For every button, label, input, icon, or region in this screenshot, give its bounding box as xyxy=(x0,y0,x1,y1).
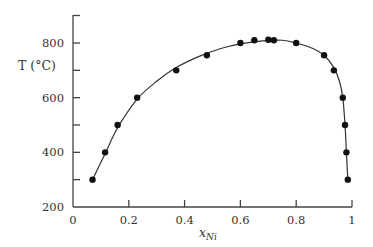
data-point xyxy=(237,40,243,46)
x-tick-label: 0.4 xyxy=(175,213,193,227)
x-axis-label: xNi xyxy=(199,225,217,242)
x-tick-label: 0.8 xyxy=(287,213,305,227)
x-tick-label: 0.6 xyxy=(231,213,249,227)
y-axis-label: T (°C) xyxy=(18,58,56,73)
data-point xyxy=(102,149,108,155)
y-tick-label: 600 xyxy=(42,91,64,105)
y-tick-label: 200 xyxy=(42,200,64,214)
data-point xyxy=(265,37,271,43)
data-point xyxy=(134,94,140,100)
x-tick-label: 0.2 xyxy=(120,213,138,227)
x-tick-label: 0 xyxy=(69,213,76,227)
data-point xyxy=(343,149,349,155)
data-point xyxy=(342,122,348,128)
fitted-curve xyxy=(93,40,348,180)
phase-diagram-chart: 200400600800 00.20.40.60.81 T (°C) xNi xyxy=(0,0,373,247)
y-tick-label: 400 xyxy=(42,145,64,159)
data-point xyxy=(204,52,210,58)
x-ticks: 00.20.40.60.81 xyxy=(69,200,355,227)
data-point xyxy=(345,176,351,182)
data-point xyxy=(114,122,120,128)
data-point xyxy=(340,94,346,100)
data-point xyxy=(251,37,257,43)
data-point xyxy=(271,37,277,43)
data-point xyxy=(173,67,179,73)
x-tick-label: 1 xyxy=(348,213,355,227)
x-axis-label-main: x xyxy=(199,225,206,240)
x-axis-label-subscript: Ni xyxy=(205,232,217,242)
axes xyxy=(73,15,352,207)
data-point xyxy=(293,40,299,46)
data-point xyxy=(321,52,327,58)
data-point xyxy=(331,67,337,73)
data-point xyxy=(89,176,95,182)
y-tick-label: 800 xyxy=(42,36,64,50)
